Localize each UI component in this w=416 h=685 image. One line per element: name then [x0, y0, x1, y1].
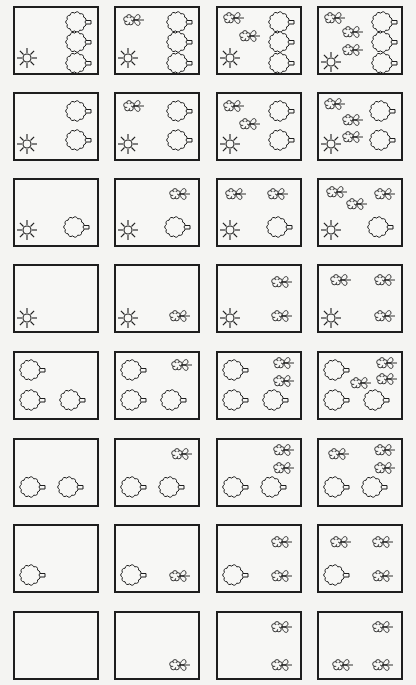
flower-icon	[169, 658, 191, 672]
picture-cell-r5-c4	[317, 351, 403, 420]
tree-icon	[268, 52, 296, 74]
flower-icon	[332, 658, 354, 672]
picture-cell-r1-c2	[114, 6, 200, 75]
tree-icon	[369, 100, 397, 122]
tree-icon	[160, 389, 188, 411]
picture-cell-r1-c4	[317, 6, 403, 75]
tree-icon	[369, 129, 397, 151]
flower-icon	[169, 569, 191, 583]
tree-icon	[262, 389, 290, 411]
flower-icon	[376, 372, 398, 386]
tree-icon	[59, 389, 87, 411]
picture-cell-r7-c2	[114, 524, 200, 593]
picture-cell-r2-c3	[216, 92, 302, 161]
flower-icon	[374, 309, 396, 323]
picture-cell-r7-c3	[216, 524, 302, 593]
tree-icon	[323, 389, 351, 411]
tree-icon	[120, 359, 148, 381]
picture-cell-r1-c1	[13, 6, 99, 75]
tree-icon	[57, 476, 85, 498]
flower-icon	[374, 443, 396, 457]
tree-icon	[164, 216, 192, 238]
flower-icon	[239, 117, 261, 131]
picture-cell-r5-c1	[13, 351, 99, 420]
sun-icon	[220, 220, 240, 240]
picture-cell-r8-c1	[13, 611, 99, 680]
flower-icon	[342, 25, 364, 39]
picture-grid	[0, 0, 416, 685]
flower-icon	[123, 99, 145, 113]
sun-icon	[321, 134, 341, 154]
flower-icon	[267, 187, 289, 201]
flower-icon	[342, 43, 364, 57]
flower-icon	[342, 130, 364, 144]
flower-icon	[273, 356, 295, 370]
picture-cell-r8-c2	[114, 611, 200, 680]
tree-icon	[166, 129, 194, 151]
tree-icon	[65, 52, 93, 74]
tree-icon	[65, 11, 93, 33]
tree-icon	[65, 31, 93, 53]
picture-cell-r2-c2	[114, 92, 200, 161]
picture-cell-r6-c1	[13, 438, 99, 507]
flower-icon	[342, 113, 364, 127]
tree-icon	[266, 216, 294, 238]
picture-cell-r3-c3	[216, 178, 302, 247]
flower-icon	[328, 447, 350, 461]
tree-icon	[120, 476, 148, 498]
tree-icon	[363, 389, 391, 411]
picture-cell-r7-c4	[317, 524, 403, 593]
picture-cell-r3-c2	[114, 178, 200, 247]
flower-icon	[376, 356, 398, 370]
flower-icon	[330, 535, 352, 549]
sun-icon	[321, 220, 341, 240]
sun-icon	[118, 134, 138, 154]
sun-icon	[118, 308, 138, 328]
tree-icon	[323, 564, 351, 586]
tree-icon	[268, 100, 296, 122]
tree-icon	[323, 359, 351, 381]
flower-icon	[169, 309, 191, 323]
flower-icon	[169, 187, 191, 201]
sun-icon	[220, 308, 240, 328]
flower-icon	[271, 569, 293, 583]
picture-cell-r4-c1	[13, 264, 99, 333]
tree-icon	[166, 100, 194, 122]
tree-icon	[268, 11, 296, 33]
picture-cell-r7-c1	[13, 524, 99, 593]
sun-icon	[220, 134, 240, 154]
tree-icon	[65, 100, 93, 122]
tree-icon	[19, 564, 47, 586]
flower-icon	[123, 13, 145, 27]
flower-icon	[271, 535, 293, 549]
flower-icon	[273, 374, 295, 388]
sun-icon	[220, 48, 240, 68]
picture-cell-r5-c3	[216, 351, 302, 420]
tree-icon	[120, 389, 148, 411]
tree-icon	[19, 389, 47, 411]
flower-icon	[374, 461, 396, 475]
flower-icon	[326, 185, 348, 199]
picture-cell-r3-c4	[317, 178, 403, 247]
tree-icon	[19, 476, 47, 498]
flower-icon	[271, 275, 293, 289]
flower-icon	[171, 358, 193, 372]
tree-icon	[120, 564, 148, 586]
picture-cell-r4-c4	[317, 264, 403, 333]
tree-icon	[222, 359, 250, 381]
flower-icon	[171, 447, 193, 461]
flower-icon	[324, 11, 346, 25]
sun-icon	[17, 308, 37, 328]
flower-icon	[372, 620, 394, 634]
tree-icon	[268, 129, 296, 151]
tree-icon	[260, 476, 288, 498]
tree-icon	[166, 11, 194, 33]
flower-icon	[271, 620, 293, 634]
tree-icon	[166, 52, 194, 74]
picture-cell-r2-c4	[317, 92, 403, 161]
tree-icon	[63, 216, 91, 238]
flower-icon	[346, 197, 368, 211]
flower-icon	[372, 658, 394, 672]
picture-cell-r8-c4	[317, 611, 403, 680]
tree-icon	[323, 476, 351, 498]
